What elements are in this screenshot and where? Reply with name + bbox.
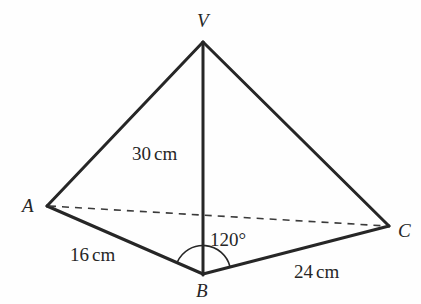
edge-VA (47, 42, 203, 206)
height-value: 30 (132, 143, 151, 164)
edge-AC-dashed (49, 206, 387, 226)
vertex-label-v: V (197, 11, 209, 30)
vertex-label-c: C (398, 221, 411, 240)
figure-canvas (0, 0, 421, 304)
side-ab-unit: cm (92, 244, 115, 265)
side-ab-measurement-label: 16cm (70, 245, 115, 264)
angle-measurement-label: 120° (210, 230, 246, 249)
side-bc-value: 24 (294, 261, 313, 282)
side-ab-value: 16 (70, 244, 89, 265)
geometry-figure: V A B C 30cm 16cm 24cm 120° (0, 0, 421, 304)
edge-VC (203, 42, 389, 226)
vertex-label-b: B (196, 281, 208, 300)
height-measurement-label: 30cm (132, 144, 177, 163)
vertex-label-a: A (22, 196, 34, 215)
side-bc-unit: cm (316, 261, 339, 282)
height-unit: cm (154, 143, 177, 164)
side-bc-measurement-label: 24cm (294, 262, 339, 281)
